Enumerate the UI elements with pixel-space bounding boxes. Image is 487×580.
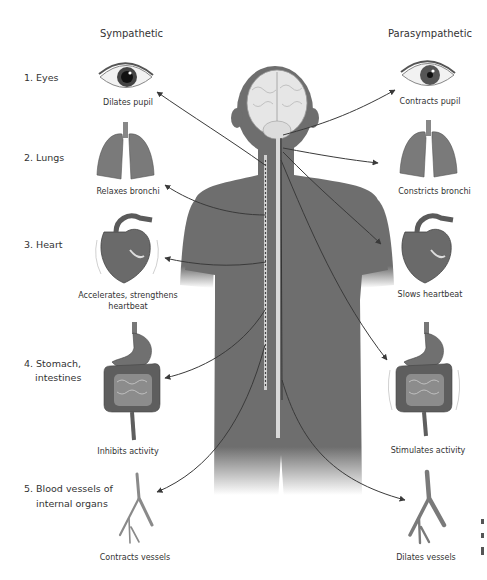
caption-stimulates-activity: Stimulates activity [376,445,480,456]
caption-dilates-pupil: Dilates pupil [86,97,170,108]
caption-contracts-vessels: Contracts vessels [80,552,190,563]
heart-icon-left [96,216,159,283]
caption-constricts-bronchi: Constricts bronchi [382,186,487,197]
eye-icon-right [401,61,455,85]
caption-relaxes-bronchi: Relaxes bronchi [80,186,176,197]
cropped-edge-mark [481,519,484,524]
caption-inhibits-activity: Inhibits activity [80,446,176,457]
eye-icon-left [99,63,153,87]
lungs-icon-right [400,120,457,177]
cropped-edge-mark [481,547,484,555]
stomach-intestines-icon-left [104,322,160,440]
stomach-intestines-icon-right [388,322,459,436]
lungs-icon-left [97,122,154,179]
heart-icon-right [402,216,453,283]
caption-contracts-pupil: Contracts pupil [382,96,478,107]
cropped-edge-mark [481,533,484,538]
caption-accelerates-line1: Accelerates, strengthens [60,290,196,301]
caption-slows-heartbeat: Slows heartbeat [382,289,478,300]
blood-vessels-icon-left [120,474,152,543]
caption-accelerates-line2: heartbeat [60,301,196,312]
caption-dilates-vessels: Dilates vessels [378,552,474,563]
blood-vessels-icon-right [410,472,444,543]
